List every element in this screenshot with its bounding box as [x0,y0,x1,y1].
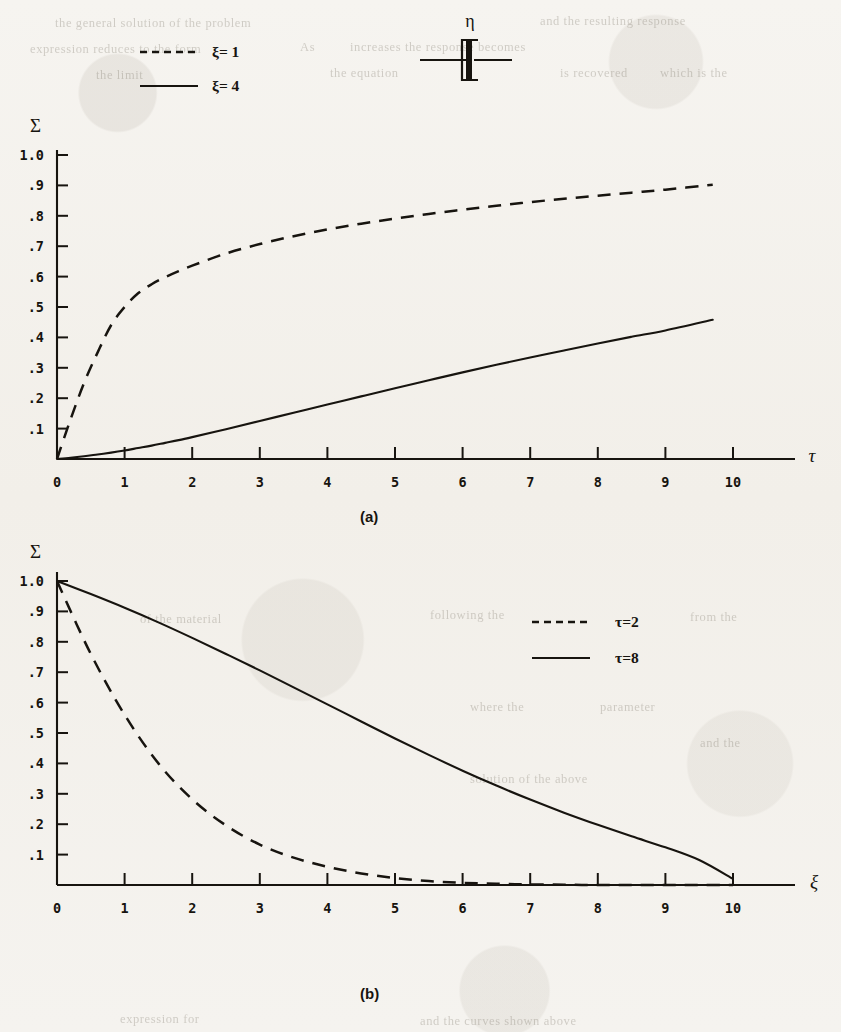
panel-a-x-ticks: 012345678910 [53,447,741,490]
panel-b-y-axis-label: Σ [30,541,41,562]
y-tick-label: 1.0 [20,573,44,589]
y-tick-label: .8 [28,634,44,650]
y-tick-label: .6 [28,695,44,711]
y-tick-label: .7 [28,238,44,254]
panel-b-plot: 1.0.9.8.7.6.5.4.3.2.1 012345678910 Σ ξ [0,540,841,960]
panel-a-y-axis-label: Σ [30,115,41,136]
x-tick-label: 0 [53,474,61,490]
panel-b-caption-wrap: (b) [0,975,841,1011]
panel-a-x-axis-label: τ [809,445,817,466]
panel-a-curve-xi-4 [57,320,713,459]
y-tick-label: .5 [28,299,44,315]
y-tick-label: .3 [28,360,44,376]
eta-label: η [465,11,474,31]
x-tick-label: 2 [188,474,196,490]
x-tick-label: 2 [188,900,196,916]
x-tick-label: 0 [53,900,61,916]
bleedthrough-line: expression for [120,1012,200,1027]
panel-a-caption: (a) [360,508,378,525]
panel-b-x-ticks: 012345678910 [53,873,741,916]
x-tick-label: 6 [459,900,467,916]
x-tick-label: 6 [459,474,467,490]
x-tick-label: 9 [661,900,669,916]
panel-b-x-axis-label: ξ [810,871,819,892]
x-tick-label: 9 [661,474,669,490]
x-tick-label: 8 [594,474,602,490]
y-tick-label: .2 [28,816,44,832]
y-tick-label: .4 [28,755,44,771]
panel-a-curve-xi-1 [57,185,713,459]
y-tick-label: .4 [28,329,44,345]
x-tick-label: 3 [256,900,264,916]
panel-a-y-ticks: 1.0.9.8.7.6.5.4.3.2.1 [20,147,68,437]
panel-a-caption-wrap: (a) [0,498,841,534]
bleedthrough-line: and the curves shown above [420,1014,577,1029]
panel-b-caption: (b) [360,985,379,1002]
y-tick-label: .6 [28,269,44,285]
x-tick-label: 1 [121,900,129,916]
x-tick-label: 4 [323,474,331,490]
panel-a-plot: 1.0.9.8.7.6.5.4.3.2.1 012345678910 Σ τ [0,110,841,530]
x-tick-label: 10 [725,474,741,490]
legend-a-item-1-label: ξ= 4 [212,77,240,94]
y-tick-label: .1 [28,847,44,863]
y-tick-label: .2 [28,390,44,406]
x-tick-label: 7 [526,900,534,916]
y-tick-label: 1.0 [20,147,44,163]
panel-b-curve-tau-8 [57,581,733,879]
x-tick-label: 7 [526,474,534,490]
panel-b-y-ticks: 1.0.9.8.7.6.5.4.3.2.1 [20,573,68,863]
x-tick-label: 1 [121,474,129,490]
x-tick-label: 5 [391,900,399,916]
y-tick-label: .1 [28,421,44,437]
x-tick-label: 10 [725,900,741,916]
y-tick-label: .5 [28,725,44,741]
y-tick-label: .9 [28,603,44,619]
panel-a-legend: ξ= 1 ξ= 4 [130,30,490,110]
y-tick-label: .9 [28,177,44,193]
panel-b-curve-tau-2 [57,581,733,885]
x-tick-label: 5 [391,474,399,490]
x-tick-label: 8 [594,900,602,916]
x-tick-label: 3 [256,474,264,490]
y-tick-label: .7 [28,664,44,680]
y-tick-label: .3 [28,786,44,802]
x-tick-label: 4 [323,900,331,916]
y-tick-label: .8 [28,208,44,224]
legend-a-item-0-label: ξ= 1 [212,43,239,60]
